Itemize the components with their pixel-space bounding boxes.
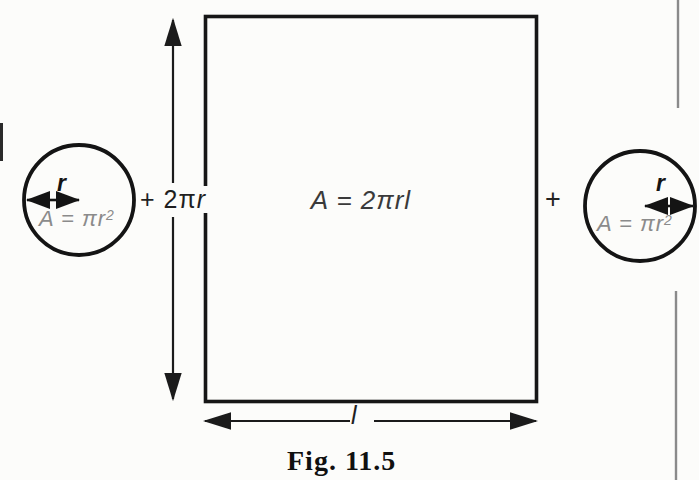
length-dimension-label: l xyxy=(351,403,357,428)
height-label-prefix: + 2π xyxy=(140,185,197,213)
left-circle-formula-main: A = πr xyxy=(39,206,106,231)
left-circle-formula-exponent: 2 xyxy=(106,207,115,223)
left-radius-label: r xyxy=(57,172,66,195)
height-label-radius: r xyxy=(197,185,206,213)
right-circle-area-formula: A = πr2 xyxy=(597,213,673,235)
height-dimension-label: + 2πr xyxy=(138,186,208,213)
left-circle-area-formula: A = πr2 xyxy=(39,208,115,230)
right-circle-formula-exponent: 2 xyxy=(664,212,673,228)
textbook-figure-cylinder-surface-area: r A = πr2 + 2πr A = 2πrl + r A = πr2 l F… xyxy=(0,0,699,480)
rectangle-area-formula: A = 2πrl xyxy=(300,187,422,213)
right-radius-label: r xyxy=(656,172,665,195)
plus-sign: + xyxy=(545,186,561,213)
right-circle-formula-main: A = πr xyxy=(597,211,664,236)
figure-linework xyxy=(0,0,699,480)
figure-caption: Fig. 11.5 xyxy=(287,447,396,475)
